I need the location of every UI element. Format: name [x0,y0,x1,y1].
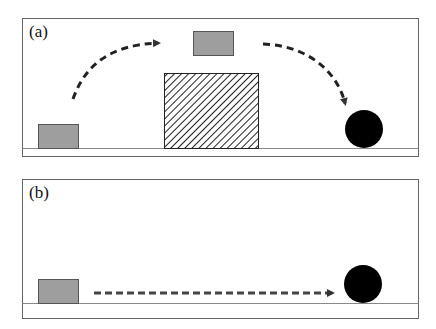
start-block [39,125,79,149]
panel-a-label: (a) [29,22,48,41]
ball [344,265,382,303]
figure-canvas: (a) (b) [0,0,436,329]
panel-b: (b) [23,180,419,319]
panel-a: (a) [23,19,419,157]
panel-b-label: (b) [29,183,49,202]
airborne-block [194,32,234,56]
start-block [39,280,79,304]
ball [345,110,383,148]
hatched-obstacle [165,74,259,149]
